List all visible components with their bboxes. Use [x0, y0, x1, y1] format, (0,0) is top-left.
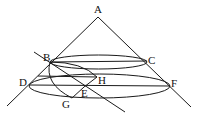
chord-through-h	[38, 76, 97, 77]
label-f: F	[171, 77, 177, 89]
label-d: D	[19, 76, 27, 88]
label-h: H	[98, 74, 106, 86]
diameter-bc	[50, 61, 147, 62]
cone-right-edge	[98, 17, 191, 107]
label-a: A	[94, 3, 102, 15]
cone-section-diagram: A B C D E F G H	[0, 0, 197, 117]
label-e: E	[81, 87, 88, 99]
label-g: G	[62, 98, 70, 110]
label-b: B	[43, 51, 50, 63]
label-c: C	[148, 54, 155, 66]
